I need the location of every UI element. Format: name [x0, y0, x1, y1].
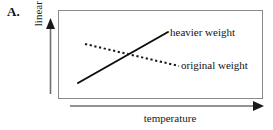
series-label-original-weight: original weight: [181, 59, 248, 72]
series-label-heavier-weight: heavier weight: [170, 26, 235, 39]
right-arrow-icon: [70, 100, 265, 112]
y-axis-label: linear expansion: [31, 0, 45, 32]
panel-letter-label: A.: [7, 5, 20, 19]
up-arrow-icon: [45, 18, 56, 94]
series-line-heavier-weight: [78, 32, 168, 83]
x-axis-label: temperature: [75, 112, 265, 125]
figure-panel-a: A. linear expansion heavier weight origi…: [0, 0, 273, 130]
series-line-original-weight: [85, 44, 179, 66]
plot-lines: [58, 10, 263, 99]
